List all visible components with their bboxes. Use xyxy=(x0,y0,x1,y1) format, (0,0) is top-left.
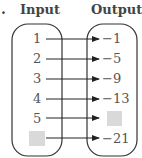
row-4: 4 −13 xyxy=(33,91,129,106)
row-3: 3 −9 xyxy=(33,71,121,86)
output-blank-box[interactable] xyxy=(107,111,122,126)
mapping-diagram: . Input Output 1 −1 2 −5 3 −9 4 −13 5 −2… xyxy=(0,0,142,158)
output-value: −1 xyxy=(102,31,121,46)
output-value: −9 xyxy=(102,71,121,86)
row-6: −21 xyxy=(29,131,129,146)
input-value: 1 xyxy=(33,31,41,46)
row-1: 1 −1 xyxy=(33,31,121,46)
output-value: −13 xyxy=(102,91,129,106)
row-5: 5 xyxy=(33,111,122,126)
output-header: Output xyxy=(91,2,142,17)
input-value: 2 xyxy=(33,51,41,66)
input-header: Input xyxy=(20,2,60,17)
row-2: 2 −5 xyxy=(33,51,121,66)
input-value: 3 xyxy=(33,71,41,86)
problem-marker: . xyxy=(1,1,6,17)
input-blank-box[interactable] xyxy=(29,131,45,146)
output-value: −5 xyxy=(102,51,121,66)
input-value: 4 xyxy=(33,91,41,106)
output-value: −21 xyxy=(102,131,129,146)
input-value: 5 xyxy=(33,111,41,126)
